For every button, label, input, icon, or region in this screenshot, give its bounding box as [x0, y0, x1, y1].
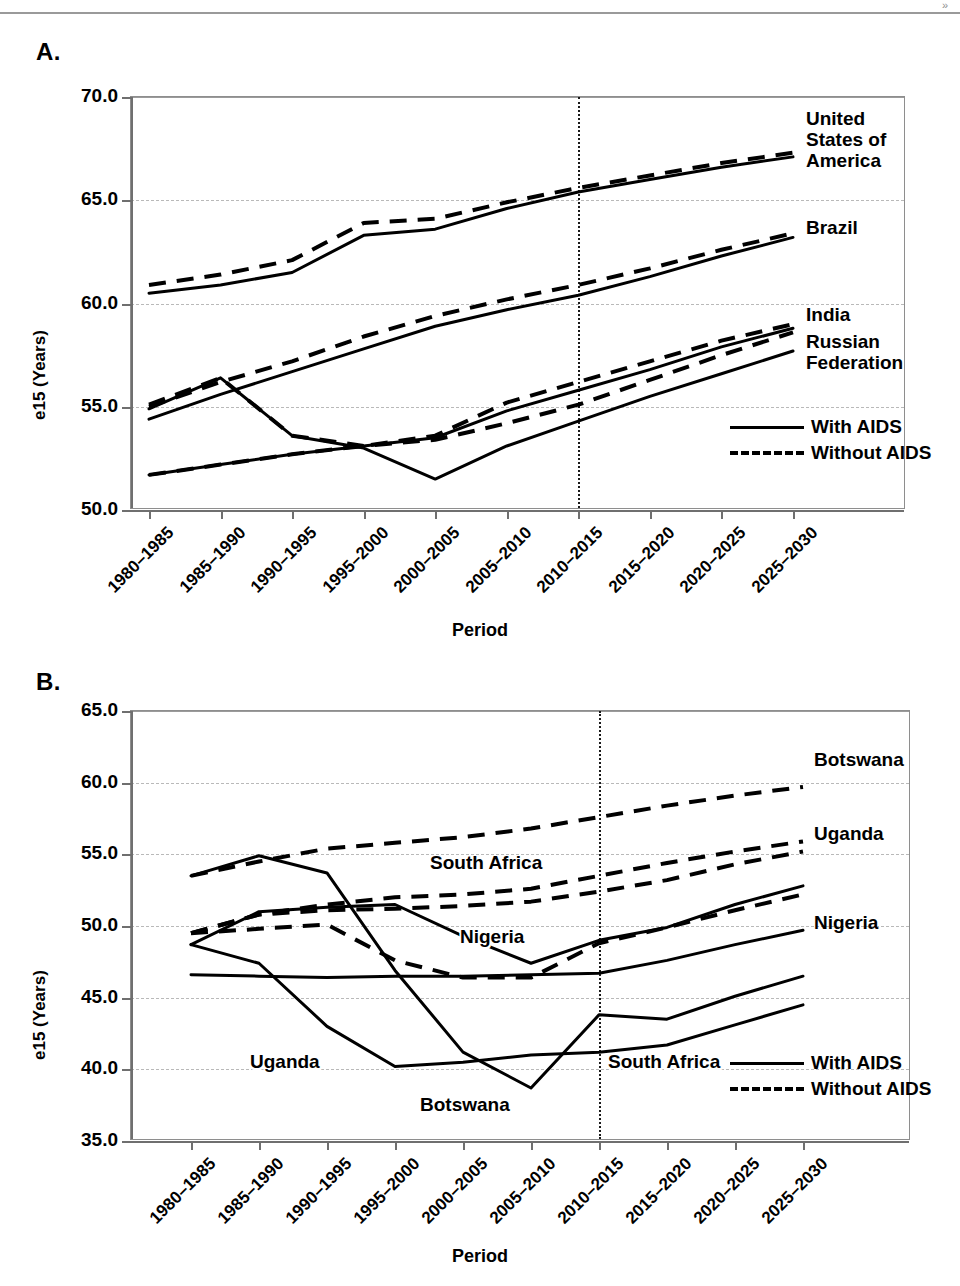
- y-axis-tick: [122, 854, 131, 856]
- x-axis-tick: [803, 1141, 805, 1150]
- x-axis-tick: [191, 1141, 193, 1150]
- x-axis-tick: [364, 510, 366, 519]
- x-axis-tick: [507, 510, 509, 519]
- legend-item-with-aids: With AIDS: [730, 1050, 932, 1076]
- figure-page: » A. e15 (Years) Period 70.065.060.055.0…: [0, 0, 960, 1286]
- y-axis-tick-label: 40.0: [52, 1057, 118, 1079]
- x-axis-line: [131, 510, 904, 512]
- series-label-nigeria: Nigeria: [814, 912, 878, 933]
- x-axis-tick: [793, 510, 795, 519]
- y-axis-tick-label: 55.0: [52, 395, 118, 417]
- x-axis-tick: [435, 510, 437, 519]
- y-axis-tick: [122, 926, 131, 928]
- y-axis-tick-label: 65.0: [52, 699, 118, 721]
- y-axis-tick-label: 35.0: [52, 1129, 118, 1151]
- legend-label: Without AIDS: [811, 442, 932, 464]
- panel-b-letter: B.: [36, 668, 61, 696]
- y-axis-tick-label: 70.0: [52, 85, 118, 107]
- x-axis-tick: [292, 510, 294, 519]
- panel-b: B. e15 (Years) Period 65.060.055.050.045…: [0, 660, 960, 1286]
- x-axis-tick: [599, 1141, 601, 1150]
- series-label-south-africa-inline: South Africa: [608, 1051, 720, 1072]
- y-axis-tick: [122, 1141, 131, 1143]
- legend-solid-line-icon: [730, 1062, 804, 1065]
- x-axis-tick: [721, 510, 723, 519]
- series-line-united-states-of-america-with-aids: [149, 157, 793, 293]
- panel-b-y-axis-title: e15 (Years): [30, 970, 50, 1060]
- y-axis-tick: [122, 711, 131, 713]
- y-axis-tick-label: 50.0: [52, 498, 118, 520]
- y-axis-tick-label: 50.0: [52, 914, 118, 936]
- series-line-brazil-with-aids: [149, 237, 793, 419]
- legend-dashed-line-icon: [730, 451, 804, 455]
- series-label-south-africa-inline: South Africa: [430, 852, 542, 873]
- legend-dashed-line-icon: [730, 1087, 804, 1091]
- y-axis-tick-label: 55.0: [52, 842, 118, 864]
- x-axis-tick: [578, 510, 580, 519]
- x-axis-tick: [650, 510, 652, 519]
- x-axis-tick: [667, 1141, 669, 1150]
- x-axis-tick: [327, 1141, 329, 1150]
- series-label-uganda-inline: Uganda: [250, 1051, 320, 1072]
- x-axis-tick: [735, 1141, 737, 1150]
- y-axis-tick: [122, 510, 131, 512]
- series-label-russian-federation: Russian Federation: [806, 331, 946, 374]
- y-axis-tick: [122, 200, 131, 202]
- y-axis-tick: [122, 783, 131, 785]
- series-line-india-with-aids: [149, 328, 793, 475]
- series-label-botswana-inline: Botswana: [420, 1094, 510, 1115]
- y-axis-tick-label: 60.0: [52, 771, 118, 793]
- legend-item-without-aids: Without AIDS: [730, 1076, 932, 1102]
- series-label-united-states-of-america: United States of America: [806, 108, 926, 172]
- legend-item-without-aids: Without AIDS: [730, 440, 932, 466]
- y-axis-tick-label: 60.0: [52, 292, 118, 314]
- panel-a-y-axis-title: e15 (Years): [30, 330, 50, 420]
- x-axis-tick: [259, 1141, 261, 1150]
- legend-label: Without AIDS: [811, 1078, 932, 1100]
- x-axis-tick: [463, 1141, 465, 1150]
- panel-b-x-axis-title: Period: [0, 1246, 960, 1267]
- y-axis-tick: [122, 998, 131, 1000]
- series-label-uganda: Uganda: [814, 823, 884, 844]
- x-axis-tick: [221, 510, 223, 519]
- y-axis-tick-label: 65.0: [52, 188, 118, 210]
- x-axis-tick: [149, 510, 151, 519]
- legend: With AIDSWithout AIDS: [730, 1050, 932, 1102]
- panel-a: A. e15 (Years) Period 70.065.060.055.050…: [0, 0, 960, 660]
- legend-label: With AIDS: [811, 416, 902, 438]
- legend-solid-line-icon: [730, 426, 804, 429]
- x-axis-tick: [395, 1141, 397, 1150]
- y-axis-tick: [122, 407, 131, 409]
- series-label-nigeria-inline: Nigeria: [460, 926, 524, 947]
- series-label-botswana: Botswana: [814, 749, 904, 770]
- x-axis-line: [131, 1141, 909, 1143]
- y-axis-tick: [122, 1069, 131, 1071]
- legend-item-with-aids: With AIDS: [730, 414, 932, 440]
- panel-a-letter: A.: [36, 38, 61, 66]
- x-axis-tick: [531, 1141, 533, 1150]
- y-axis-tick-label: 45.0: [52, 986, 118, 1008]
- legend: With AIDSWithout AIDS: [730, 414, 932, 466]
- series-label-india: India: [806, 304, 850, 325]
- legend-label: With AIDS: [811, 1052, 902, 1074]
- y-axis-tick: [122, 97, 131, 99]
- y-axis-tick: [122, 304, 131, 306]
- series-label-brazil: Brazil: [806, 217, 858, 238]
